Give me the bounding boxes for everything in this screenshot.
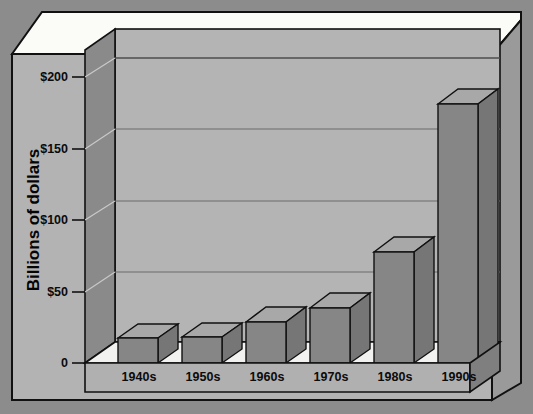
bar-front-face [438,104,478,363]
bar-front-face [118,338,158,363]
bar-front-face [182,337,222,363]
bar-front-face [246,322,286,363]
chart-container: 0 $50 $100 $150 $200 Billions of dollars… [0,0,533,414]
bar-1990s [438,89,498,363]
y-tick-label-0: 0 [61,356,68,370]
bar-front-face [310,308,350,363]
bar-1960s [246,307,306,363]
x-tick-label-1970s: 1970s [314,370,349,384]
x-tick-label-1980s: 1980s [378,370,413,384]
bar-side-face [414,237,434,363]
y-tick-label-150: $150 [40,142,68,156]
bar-1980s [374,237,434,363]
y-tick-label-100: $100 [40,213,68,227]
bar-front-face [374,252,414,363]
bar-1970s [310,293,370,363]
x-tick-label-1960s: 1960s [250,370,285,384]
y-tick-label-50: $50 [47,285,68,299]
y-tick-label-200: $200 [40,70,68,84]
x-tick-label-1950s: 1950s [186,370,221,384]
plot-left-wall [85,29,115,363]
bar-side-face [478,89,498,363]
bar-chart-3d: 0 $50 $100 $150 $200 Billions of dollars… [0,0,533,414]
x-tick-label-1940s: 1940s [122,370,157,384]
y-axis-title: Billions of dollars [24,149,43,292]
x-tick-label-1990s: 1990s [442,370,477,384]
